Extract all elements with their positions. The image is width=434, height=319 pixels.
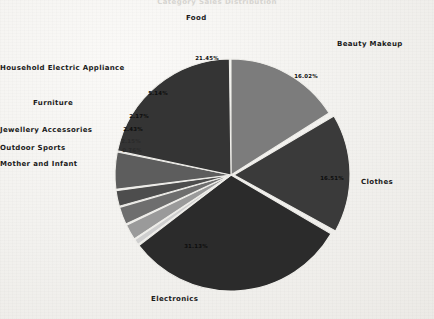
slice-percent-label: 31.13% — [184, 243, 208, 249]
pie-category-label: Outdoor Sports — [0, 144, 39, 153]
slice-percent-label: 16.51% — [320, 175, 344, 181]
pie-category-label: Electronics — [151, 295, 198, 304]
slice-percent-label: 2.17% — [129, 113, 149, 119]
slice-percent-label: 21.45% — [195, 55, 219, 61]
pie-category-label: Mother and Infant — [0, 160, 24, 169]
slice-percent-label: 0.76% — [122, 147, 142, 153]
pie-category-label: Jewellery Accessories — [0, 126, 14, 135]
pie-category-label: Clothes — [361, 178, 393, 187]
pie-category-label: Beauty Makeup — [337, 40, 403, 49]
slice-percent-label: 16.02% — [294, 73, 318, 79]
slice-percent-label: 2.15% — [121, 138, 141, 144]
slice-percent-label: 5.14% — [148, 90, 168, 96]
slice-percent-label: 2.43% — [123, 126, 143, 132]
pie-category-label: Food — [186, 14, 207, 23]
pie-category-label: Furniture — [0, 99, 73, 108]
pie-category-label: Household Electric Appliance — [0, 64, 17, 73]
pie-chart-figure: Category Sales Distribution 16.02%16.51%… — [0, 0, 434, 319]
